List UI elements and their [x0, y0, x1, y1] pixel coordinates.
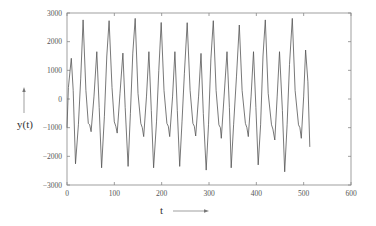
y-tick-label: 1000: [47, 66, 62, 75]
x-tick-label: 200: [156, 189, 168, 198]
x-axis-arrowhead-icon: [204, 209, 209, 212]
x-tick-label: 0: [65, 189, 69, 198]
x-tick-label: 400: [251, 189, 263, 198]
x-axis-label-group: t: [160, 204, 209, 216]
y-axis-ticks: −3000−2000−10000100020003000: [43, 9, 351, 190]
x-tick-label: 300: [203, 189, 215, 198]
y-tick-label: 2000: [47, 37, 62, 46]
y-tick-label: −3000: [43, 181, 62, 190]
x-tick-label: 500: [298, 189, 310, 198]
y-tick-label: 0: [58, 95, 62, 104]
y-tick-label: 3000: [47, 9, 62, 18]
line-chart: −3000−2000−10000100020003000 01002003004…: [0, 0, 376, 226]
series-line: [67, 18, 310, 171]
x-axis-label: t: [160, 204, 163, 216]
y-axis-label-group: y(t): [17, 87, 33, 131]
y-axis-arrowhead-icon: [22, 87, 25, 92]
y-tick-label: −2000: [43, 152, 62, 161]
y-axis-label: y(t): [17, 118, 33, 131]
x-tick-label: 600: [345, 189, 357, 198]
x-axis-ticks: 0100200300400500600: [65, 13, 357, 198]
y-tick-label: −1000: [43, 123, 62, 132]
x-tick-label: 100: [109, 189, 121, 198]
